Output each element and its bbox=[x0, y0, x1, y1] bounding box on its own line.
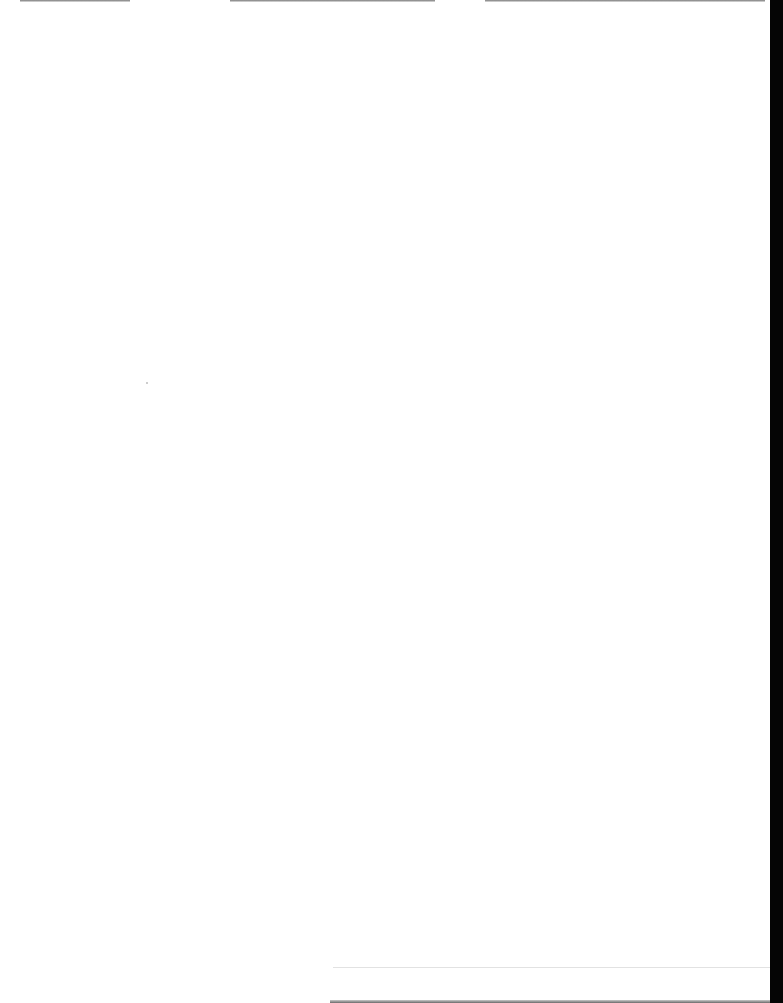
scan-artifact-top-center bbox=[230, 0, 435, 2]
faint-horizontal-line bbox=[333, 967, 770, 968]
scan-artifact-top-right bbox=[485, 0, 765, 2]
scan-artifact-top-left bbox=[20, 0, 130, 2]
dust-speck bbox=[146, 382, 148, 384]
scanner-edge-shadow bbox=[770, 0, 783, 1003]
blank-scanned-page bbox=[0, 0, 770, 1003]
